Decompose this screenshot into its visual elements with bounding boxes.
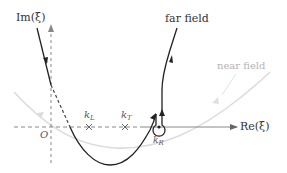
kR-point <box>157 125 160 128</box>
kT-sub: T <box>127 114 132 122</box>
far-field-contour-lower <box>70 114 156 165</box>
near-field-arrow-icon <box>212 97 219 104</box>
kR-label: kR <box>153 136 164 147</box>
real-axis-label: Re(ξ) <box>240 121 269 132</box>
diagram-canvas <box>0 0 287 173</box>
far-field-contour-upper <box>162 28 177 113</box>
contour-dashed-segment <box>51 85 70 127</box>
far-field-contour <box>37 28 51 85</box>
contour-arrow-up-icon <box>169 55 173 63</box>
imaginary-axis-label: Im(ξ) <box>16 12 45 23</box>
far-field-label: far field <box>165 13 209 24</box>
near-field-label: near field <box>217 61 265 71</box>
origin-label: O <box>40 130 48 140</box>
imaginary-axis-arrow-icon <box>48 24 54 32</box>
contour-diagram: Im(ξ) Re(ξ) O far field near field kL kT… <box>0 0 287 173</box>
kR-sub: R <box>158 139 163 147</box>
contour-arrow-up-icon <box>159 109 165 116</box>
kL-label: kL <box>84 110 95 122</box>
near-field-leader <box>222 74 236 95</box>
contour-arrow-up-icon <box>150 113 156 120</box>
kT-label: kT <box>121 110 132 122</box>
near-field-curve <box>14 72 270 148</box>
kL-sub: L <box>90 114 95 122</box>
